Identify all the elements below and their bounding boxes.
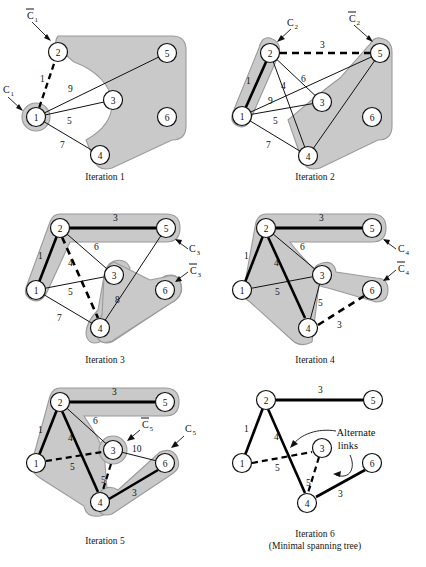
node-4: 4 <box>299 147 318 166</box>
node-3: 3 <box>313 266 332 285</box>
node-4: 4 <box>91 146 110 165</box>
node-2-label: 2 <box>264 224 269 234</box>
p1-edge-label-1-2: 1 <box>40 74 45 84</box>
node-1: 1 <box>27 281 46 300</box>
p3-c3-bar-sub: 3 <box>198 271 202 279</box>
panel-iteration-1: 2 5 3 6 1 4 1 9 5 7 C 1 <box>3 9 186 169</box>
p1-edge-label-1-4: 7 <box>60 140 65 150</box>
p6-edge-label-4-6: 3 <box>338 489 343 499</box>
edge-1-3-dashed <box>252 452 312 463</box>
node-5: 5 <box>363 219 382 238</box>
p3-edge-label-1-3: 5 <box>68 287 73 297</box>
node-1-label: 1 <box>34 286 39 296</box>
p1-edge-label-1-5: 9 <box>68 84 73 94</box>
p6-edge-label-2-4: 4 <box>274 432 279 442</box>
node-1: 1 <box>233 107 252 126</box>
p5-c5-sub: 5 <box>193 429 197 437</box>
node-2-label: 2 <box>58 224 63 234</box>
p1-c1-label: C <box>3 84 10 95</box>
p2-edge-label-1-5: 9 <box>268 96 273 106</box>
node-6: 6 <box>156 281 175 300</box>
mst-diagram-canvas: 2 5 3 6 1 4 1 9 5 7 C 1 <box>0 0 426 567</box>
mst-figure: 2 5 3 6 1 4 1 9 5 7 C 1 <box>0 0 426 567</box>
node-2-label: 2 <box>58 398 63 408</box>
caption-iteration-2: Iteration 2 <box>250 172 380 183</box>
p3-c3-label: C <box>189 243 196 254</box>
node-3-label: 3 <box>111 96 116 106</box>
alternate-links-label-line1: Alternate <box>336 427 375 438</box>
p5-c5-bar-label: C <box>142 419 149 430</box>
edge-1-2-dashed <box>36 52 58 117</box>
p2-edge-label-2-4: 4 <box>281 81 286 91</box>
node-1-label: 1 <box>240 112 245 122</box>
node-4: 4 <box>91 319 110 338</box>
node-5-label: 5 <box>165 49 170 59</box>
node-6-label: 6 <box>165 113 170 123</box>
p4-edge-label-1-3: 5 <box>275 287 280 297</box>
node-5-label: 5 <box>378 49 383 59</box>
p6-edge-label-3-4: 5 <box>306 478 311 488</box>
node-1: 1 <box>27 454 46 473</box>
node-6: 6 <box>363 454 382 473</box>
caption-iteration-5: Iteration 5 <box>40 536 170 547</box>
p4-c4-sub: 4 <box>406 249 410 257</box>
panel-iteration-4: 2 5 3 6 1 4 3 1 6 4 5 5 3 C 4 <box>233 213 410 345</box>
node-1: 1 <box>233 454 252 473</box>
node-4-label: 4 <box>98 324 103 334</box>
p4-edge-label-1-2: 1 <box>244 251 249 261</box>
p4-edge-label-3-4: 5 <box>318 298 323 308</box>
p5-edge-label-3-4: 5 <box>101 475 106 485</box>
node-2-label: 2 <box>56 48 61 58</box>
p3-c3-sub: 3 <box>197 249 201 257</box>
p4-c4-bar-label: C <box>398 263 405 274</box>
node-1: 1 <box>27 108 46 127</box>
node-2: 2 <box>51 219 70 238</box>
node-2: 2 <box>49 43 68 62</box>
node-3: 3 <box>313 439 332 458</box>
p5-edge-label-1-3: 5 <box>70 462 75 472</box>
edge-2-3 <box>270 53 322 102</box>
node-4: 4 <box>299 319 318 338</box>
node-3-label: 3 <box>111 446 116 456</box>
panel-iteration-6: 2 5 3 6 1 4 3 1 4 5 5 3 Alternate li <box>233 385 383 513</box>
p3-edge-label-2-5: 3 <box>113 213 118 223</box>
p3-c3-bar-label: C <box>190 265 197 276</box>
node-5: 5 <box>157 219 176 238</box>
p3-edge-label-1-2: 1 <box>38 251 43 261</box>
node-6-label: 6 <box>370 113 375 123</box>
p1-c1-bar-label: C <box>27 10 34 21</box>
node-3-label: 3 <box>112 271 117 281</box>
alternate-links-arrowhead-bottom <box>333 471 341 477</box>
node-5-label: 5 <box>370 224 375 234</box>
node-3-label: 3 <box>320 271 325 281</box>
p4-edge-label-4-6: 3 <box>337 320 342 330</box>
p2-edge-label-2-5: 3 <box>320 40 325 50</box>
panel-iteration-3: 2 5 3 6 1 4 3 1 6 4 5 8 7 C 3 <box>25 213 201 343</box>
alternate-links-arrowhead-top <box>290 440 298 448</box>
node-2: 2 <box>257 391 276 410</box>
p3-edge-label-1-4: 7 <box>57 313 62 323</box>
p6-edge-label-1-3: 5 <box>275 463 280 473</box>
node-5-label: 5 <box>163 398 168 408</box>
node-3-label: 3 <box>320 98 325 108</box>
node-1-label: 1 <box>240 286 245 296</box>
node-6-label: 6 <box>163 459 168 469</box>
edge-2-4 <box>270 53 308 156</box>
caption-iteration-4: Iteration 4 <box>250 355 380 366</box>
node-2: 2 <box>261 44 280 63</box>
p5-edge-label-4-6: 3 <box>132 488 137 498</box>
p6-edge-label-1-2: 1 <box>244 424 249 434</box>
node-3: 3 <box>105 266 124 285</box>
node-4-label: 4 <box>305 499 310 509</box>
alternate-links-label-line2: links <box>338 440 358 451</box>
p2-c2-bar-sub: 2 <box>357 19 361 27</box>
node-4-label: 4 <box>306 152 311 162</box>
p5-edge-label-2-4: 4 <box>68 433 73 443</box>
node-5: 5 <box>156 393 175 412</box>
p4-edge-label-2-4: 4 <box>274 258 279 268</box>
p6-edge-label-2-5: 3 <box>318 385 323 395</box>
p2-edge-label-1-2: 1 <box>246 76 251 86</box>
panel-iteration-5: 2 5 3 6 1 4 3 1 6 4 5 10 5 3 C <box>27 387 197 516</box>
node-5-label: 5 <box>164 224 169 234</box>
caption-iteration-1: Iteration 1 <box>40 172 170 183</box>
